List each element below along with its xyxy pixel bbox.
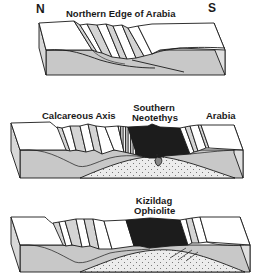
calcareous-axis-label: Calcareous Axis	[42, 111, 116, 121]
block-diagram-figure: N S Northern Edge of Arabia Calcareous A…	[0, 0, 259, 276]
panel-3-block	[11, 217, 250, 272]
south-label: S	[208, 3, 216, 13]
southern-neotethys-line2: Neotethys	[132, 113, 176, 123]
northern-edge-arabia-label: Northern Edge of Arabia	[66, 9, 175, 19]
arabia-label: Arabia	[206, 111, 236, 121]
kizildag-ophiolite-label: Kizildag Ophiolite	[134, 196, 174, 216]
kizildag-line2: Ophiolite	[134, 206, 174, 216]
southern-neotethys-label: Southern Neotethys	[132, 103, 176, 123]
block-diagram-svg	[0, 0, 259, 276]
north-label: N	[36, 4, 45, 14]
panel-1-block	[39, 21, 225, 75]
panel-2-block	[11, 122, 243, 178]
